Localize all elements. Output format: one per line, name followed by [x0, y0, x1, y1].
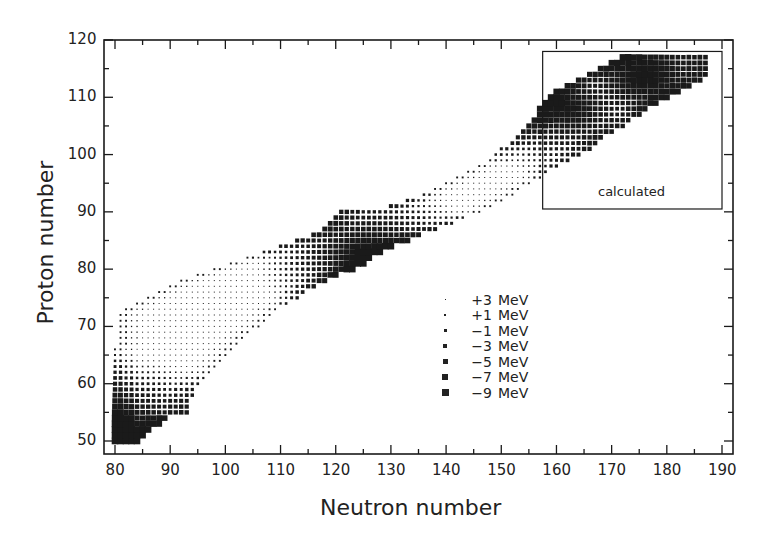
nuclide-marker: [626, 106, 631, 111]
nuclide-marker: [142, 337, 143, 338]
nuclide-marker: [542, 100, 548, 106]
nuclide-marker: [164, 315, 165, 316]
nuclide-marker: [181, 309, 182, 310]
nuclide-marker: [517, 154, 519, 156]
nuclide-marker: [279, 257, 281, 259]
nuclide-marker: [506, 194, 508, 196]
legend-item: +3MeV: [440, 292, 528, 308]
x-tick-label: 130: [377, 461, 406, 479]
nuclide-marker: [582, 141, 586, 145]
nuclide-marker: [214, 354, 215, 355]
nuclide-marker: [214, 315, 215, 316]
nuclide-marker: [142, 315, 143, 316]
nuclide-marker: [372, 221, 376, 225]
nuclide-marker: [462, 177, 464, 179]
nuclide-marker: [506, 188, 507, 189]
nuclide-marker: [296, 273, 299, 276]
nuclide-marker: [553, 89, 559, 95]
nuclide-marker: [566, 141, 570, 145]
nuclide-marker: [203, 337, 204, 338]
nuclide-marker: [533, 153, 536, 156]
nuclide-marker: [301, 273, 304, 276]
nuclide-marker: [664, 89, 670, 95]
nuclide-marker: [214, 332, 215, 333]
nuclide-marker: [186, 383, 188, 385]
nuclide-marker: [610, 107, 614, 111]
nuclide-marker: [349, 266, 356, 273]
nuclide-marker: [125, 349, 126, 350]
nuclide-marker: [642, 55, 647, 60]
nuclide-marker: [553, 94, 559, 100]
y-tick-label: 80: [77, 259, 96, 277]
nuclide-marker: [620, 72, 626, 78]
nuclide-marker: [543, 130, 547, 134]
nuclide-marker: [658, 77, 664, 83]
nuclide-marker: [263, 263, 264, 264]
nuclide-marker: [692, 72, 697, 77]
nuclide-marker: [604, 129, 609, 134]
nuclide-marker: [664, 55, 669, 60]
nuclide-marker: [581, 106, 586, 111]
nuclide-marker: [468, 206, 469, 207]
nuclide-marker: [334, 215, 339, 220]
nuclide-marker: [626, 112, 630, 116]
nuclide-marker: [142, 309, 143, 310]
legend-marker-icon: [440, 359, 450, 364]
nuclide-marker: [123, 410, 129, 416]
nuclide-marker: [517, 159, 519, 161]
nuclide-marker: [598, 84, 602, 88]
nuclide-marker: [208, 332, 209, 333]
nuclide-marker: [186, 366, 187, 367]
nuclide-marker: [428, 216, 431, 219]
nuclide-marker: [451, 194, 452, 195]
nuclide-marker: [565, 83, 571, 89]
nuclide-marker: [406, 199, 409, 202]
nuclide-marker: [539, 176, 541, 178]
nuclide-marker: [664, 72, 670, 78]
nuclide-marker: [516, 141, 520, 145]
nuclide-marker: [490, 165, 491, 166]
nuclide-marker: [344, 238, 349, 243]
nuclide-marker: [241, 280, 242, 281]
nuclide-marker: [164, 309, 165, 310]
nuclide-marker: [571, 153, 575, 157]
nuclide-marker: [620, 83, 625, 88]
nuclide-marker: [554, 135, 558, 139]
nuclide-marker: [186, 337, 187, 338]
nuclide-marker: [456, 216, 459, 219]
nuclide-marker: [434, 205, 436, 207]
nuclide-marker: [445, 182, 447, 184]
nuclide-marker: [129, 404, 134, 409]
nuclide-marker: [247, 274, 248, 275]
nuclide-marker: [615, 83, 620, 88]
nuclide-marker: [339, 210, 343, 214]
nuclide-marker: [411, 227, 415, 231]
nuclide-marker: [124, 382, 128, 386]
nuclide-marker: [500, 159, 502, 161]
nuclide-marker: [355, 249, 361, 255]
nuclide-marker: [339, 221, 343, 225]
nuclide-marker: [553, 100, 559, 106]
nuclide-marker: [141, 388, 144, 391]
nuclide-marker: [323, 250, 327, 254]
nuclide-marker: [423, 216, 426, 219]
nuclide-marker: [125, 320, 127, 322]
nuclide-marker: [394, 227, 398, 231]
nuclide-marker: [285, 280, 287, 282]
nuclide-marker: [120, 337, 122, 339]
nuclide-marker: [208, 286, 209, 287]
nuclide-marker: [553, 106, 559, 112]
nuclide-marker: [604, 107, 608, 111]
nuclide-marker: [473, 211, 475, 213]
nuclide-chart-plot: [0, 0, 762, 537]
nuclide-marker: [405, 232, 410, 237]
nuclide-marker: [539, 159, 541, 161]
nuclide-marker: [434, 216, 436, 218]
nuclide-marker: [560, 159, 564, 163]
nuclide-marker: [664, 83, 669, 88]
nuclide-marker: [582, 83, 587, 88]
nuclide-marker: [637, 100, 642, 105]
nuclide-marker: [555, 164, 558, 167]
nuclide-marker: [697, 72, 702, 77]
nuclide-marker: [197, 274, 199, 276]
